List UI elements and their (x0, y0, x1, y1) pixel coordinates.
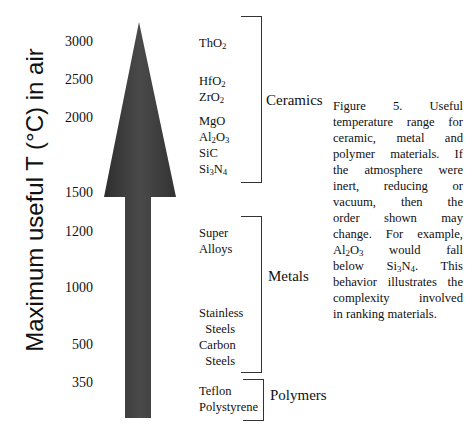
material-metals-1: Alloys (199, 241, 232, 257)
caption-line: the atmosphere were (333, 162, 463, 178)
group-label-metals: Metals (268, 268, 309, 285)
group-label-polymers: Polymers (270, 387, 327, 404)
caption-line: below Si3N4. This (333, 258, 463, 274)
material-ceramics-5: SiC (199, 145, 218, 161)
material-ceramics-6: Si3N4 (199, 161, 227, 177)
caption-line: Al2O3 would fall (333, 242, 463, 258)
material-ceramics-3: MgO (199, 113, 225, 129)
material-ceramics-0: ThO2 (199, 35, 226, 51)
figure-caption: Figure 5. Usefultemperature range forcer… (333, 98, 463, 322)
caption-line: change. For example, (333, 226, 463, 242)
material-polymers-0: Teflon (199, 383, 231, 399)
material-ceramics-2: ZrO2 (199, 89, 224, 105)
caption-line: temperature range for (333, 114, 463, 130)
material-metals-4: Carbon (199, 337, 236, 353)
caption-line: complexity involved (333, 290, 463, 306)
material-metals-0: Super (199, 225, 228, 241)
material-metals-3: Steels (199, 321, 235, 337)
caption-line: ceramic, metal and (333, 130, 463, 146)
caption-line: Figure 5. Useful (333, 98, 463, 114)
material-ceramics-1: HfO2 (199, 73, 226, 89)
group-label-ceramics: Ceramics (266, 92, 323, 109)
metals-bracket (241, 216, 262, 373)
caption-line: inert, reducing or (333, 178, 463, 194)
caption-line: behavior illustrates the (333, 274, 463, 290)
caption-line: polymer materials. If (333, 146, 463, 162)
caption-line: vacuum, then the (333, 194, 463, 210)
material-ceramics-4: Al2O3 (199, 129, 229, 145)
caption-line: in ranking materials. (333, 306, 463, 322)
material-metals-5: Steels (199, 353, 235, 369)
polymers-bracket (243, 379, 264, 421)
ceramics-bracket (241, 16, 262, 183)
caption-line: order shown may (333, 210, 463, 226)
material-metals-2: Stainless (199, 305, 243, 321)
